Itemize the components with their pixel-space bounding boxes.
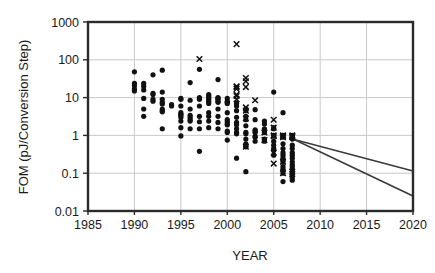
data-point-circle [253, 107, 258, 112]
data-point-circle [160, 109, 165, 114]
y-axis-title: FOM (pJ/Conversion Step) [16, 40, 31, 195]
x-tick-label: 1995 [167, 218, 195, 232]
data-point-circle [262, 121, 267, 126]
data-point-circle [225, 130, 230, 135]
data-point-circle [234, 115, 239, 120]
chart-background [0, 0, 435, 273]
x-tick-label: 1990 [121, 218, 149, 232]
data-point-circle [243, 123, 248, 128]
data-point-circle [215, 77, 220, 82]
data-point-circle [234, 131, 239, 136]
data-point-circle [160, 89, 165, 94]
x-tick-label: 2010 [306, 218, 334, 232]
data-point-circle [197, 114, 202, 119]
y-tick-label: 1 [72, 129, 79, 143]
x-tick-label: 2005 [260, 218, 288, 232]
data-point-circle [197, 103, 202, 108]
data-point-circle [290, 178, 295, 183]
data-point-circle [178, 103, 183, 108]
data-point-circle [243, 136, 248, 141]
data-point-circle [206, 125, 211, 130]
data-point-circle [141, 87, 146, 92]
x-tick-label: 2000 [213, 218, 241, 232]
data-point-circle [188, 80, 193, 85]
data-point-circle [234, 103, 239, 108]
data-point-circle [253, 139, 258, 144]
y-tick-label: 0.1 [62, 167, 79, 181]
data-point-circle [206, 101, 211, 106]
data-point-circle [178, 125, 183, 130]
data-point-circle [225, 101, 230, 106]
data-point-circle [280, 141, 285, 146]
data-point-circle [150, 92, 155, 97]
data-point-circle [234, 108, 239, 113]
data-point-circle [280, 179, 285, 184]
x-axis-title: YEAR [232, 248, 267, 263]
data-point-circle [225, 122, 230, 127]
data-point-circle [188, 106, 193, 111]
data-point-circle [150, 99, 155, 104]
data-point-circle [160, 101, 165, 106]
data-point-circle [141, 96, 146, 101]
x-tick-label: 1985 [74, 218, 102, 232]
data-point-circle [178, 133, 183, 138]
data-point-circle [169, 103, 174, 108]
data-point-circle [160, 126, 165, 131]
data-point-circle [132, 69, 137, 74]
data-point-circle [197, 149, 202, 154]
data-point-circle [188, 126, 193, 131]
data-point-circle [197, 126, 202, 131]
data-point-circle [188, 118, 193, 123]
data-point-circle [150, 72, 155, 77]
data-point-circle [197, 67, 202, 72]
data-point-circle [215, 106, 220, 111]
data-point-circle [243, 131, 248, 136]
chart-figure: 19851990199520002005201020152020 0.010.1… [0, 0, 435, 273]
data-point-circle [215, 126, 220, 131]
data-point-circle [234, 156, 239, 161]
data-point-circle [271, 89, 276, 94]
data-point-circle [132, 88, 137, 93]
data-point-circle [206, 118, 211, 123]
data-point-circle [206, 114, 211, 119]
y-tick-label: 10 [65, 91, 79, 105]
data-point-circle [188, 98, 193, 103]
data-point-circle [178, 118, 183, 123]
x-tick-label: 2020 [399, 218, 427, 232]
data-point-circle [178, 97, 183, 102]
data-point-circle [197, 119, 202, 124]
data-point-circle [215, 114, 220, 119]
data-point-circle [197, 97, 202, 102]
data-point-circle [141, 114, 146, 119]
data-point-circle [225, 138, 230, 143]
y-tick-label: 100 [58, 53, 79, 67]
data-point-circle [215, 120, 220, 125]
x-tick-label: 2015 [353, 218, 381, 232]
data-point-circle [141, 106, 146, 111]
data-point-circle [215, 100, 220, 105]
data-point-circle [253, 117, 258, 122]
data-point-circle [243, 169, 248, 174]
y-tick-label: 0.01 [55, 205, 79, 219]
data-point-circle [160, 68, 165, 73]
y-tick-label: 1000 [51, 16, 79, 30]
data-point-circle [225, 110, 230, 115]
data-point-circle [280, 110, 285, 115]
fom-vs-year-scatter-chart: 19851990199520002005201020152020 0.010.1… [0, 0, 435, 273]
